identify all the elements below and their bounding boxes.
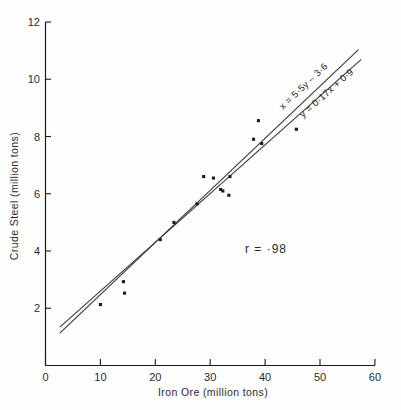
data-point — [122, 280, 125, 283]
x-tick-label-0: 0 — [42, 371, 48, 383]
x-tick-label-30: 30 — [204, 371, 216, 383]
plot-area: 12 10 8 6 4 2 0 10 20 30 40 50 60 Iron — [0, 0, 401, 410]
y-tick-label-10: 10 — [28, 73, 40, 85]
data-point — [202, 175, 205, 178]
data-point — [252, 138, 255, 141]
data-points — [99, 119, 298, 306]
data-point — [196, 202, 199, 205]
x-axis-ticks — [46, 359, 375, 366]
x-tick-label-60: 60 — [369, 371, 381, 383]
x-axis-title: Iron Ore (million tons) — [158, 386, 268, 398]
y-axis-title: Crude Steel (million tons) — [8, 132, 20, 260]
regression-lines — [60, 50, 362, 334]
data-point — [99, 303, 102, 306]
data-point — [172, 221, 175, 224]
data-point — [159, 238, 162, 241]
y-tick-label-6: 6 — [34, 188, 40, 200]
data-point — [227, 194, 230, 197]
regression-line-x-on-y — [60, 50, 359, 334]
data-point — [228, 175, 231, 178]
data-point — [212, 177, 215, 180]
y-tick-label-4: 4 — [34, 245, 40, 257]
x-tick-label-10: 10 — [94, 371, 106, 383]
data-point — [260, 142, 263, 145]
y-tick-label-8: 8 — [34, 131, 40, 143]
data-point — [257, 119, 260, 122]
scatter-chart-figure: 12 10 8 6 4 2 0 10 20 30 40 50 60 Iron — [0, 0, 401, 410]
x-tick-label-50: 50 — [314, 371, 326, 383]
correlation-annotation: r = ·98 — [245, 242, 287, 256]
y-axis-tick-labels: 12 10 8 6 4 2 — [28, 16, 40, 314]
x-axis-tick-labels: 0 10 20 30 40 50 60 — [42, 371, 381, 383]
x-tick-label-20: 20 — [149, 371, 161, 383]
y-tick-label-2: 2 — [34, 302, 40, 314]
x-tick-label-40: 40 — [259, 371, 271, 383]
data-point — [295, 128, 298, 131]
y-axis-ticks — [46, 22, 52, 308]
data-point — [221, 189, 224, 192]
lower-line-equation-label: y = 0·17x + 0·9 — [297, 66, 356, 120]
data-point — [123, 292, 126, 295]
y-tick-label-12: 12 — [28, 16, 40, 28]
